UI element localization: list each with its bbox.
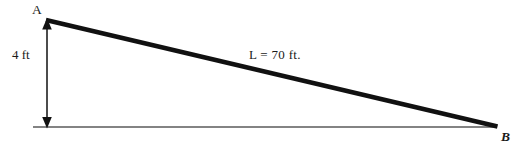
ramp-length-label: L = 70 ft. bbox=[249, 48, 301, 61]
height-dimension-label: 4 ft bbox=[12, 48, 30, 61]
vertex-label-a: A bbox=[32, 3, 42, 17]
diagram-canvas bbox=[0, 0, 526, 168]
ramp-diagram: A 4 ft L = 70 ft. B bbox=[0, 0, 526, 168]
ramp-line bbox=[46, 20, 498, 127]
height-dimension-arrow bbox=[42, 18, 52, 129]
vertex-label-b: B bbox=[501, 130, 510, 144]
